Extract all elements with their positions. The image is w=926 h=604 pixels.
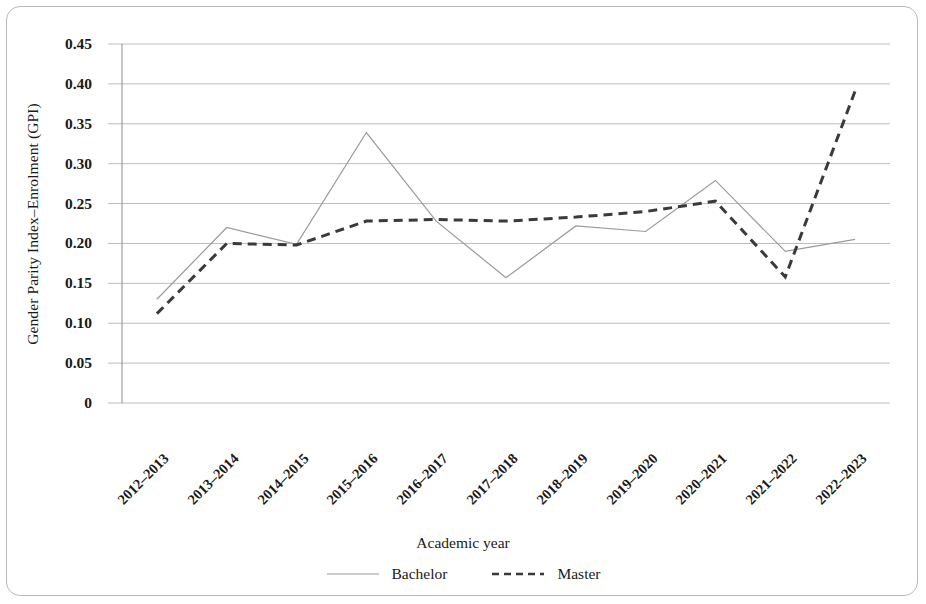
y-tick-label: 0.25 xyxy=(32,196,92,212)
series-lines xyxy=(157,91,855,314)
chart-legend: BachelorMaster xyxy=(0,566,926,582)
y-tick-label: 0.15 xyxy=(32,275,92,291)
legend-swatch-solid-line-icon xyxy=(326,569,380,579)
legend-swatch-dashed-line-icon xyxy=(491,569,545,579)
y-tick-label: 0.10 xyxy=(32,315,92,331)
legend-label: Master xyxy=(557,566,600,582)
series-line-bachelor xyxy=(157,133,855,300)
y-tick-label: 0 xyxy=(32,395,92,411)
legend-entry-bachelor: Bachelor xyxy=(326,566,448,582)
y-tick-label: 0.05 xyxy=(32,355,92,371)
plot-canvas xyxy=(0,0,926,604)
legend-label: Bachelor xyxy=(392,566,448,582)
y-tick-label: 0.45 xyxy=(32,36,92,52)
gridlines xyxy=(108,44,890,403)
series-line-master xyxy=(157,91,855,314)
x-axis-title: Academic year xyxy=(0,534,926,552)
line-chart: Gender Parity Index–Enrolment (GPI) 00.0… xyxy=(0,0,926,604)
legend-entry-master: Master xyxy=(491,566,600,582)
y-tick-label: 0.35 xyxy=(32,116,92,132)
y-tick-label: 0.40 xyxy=(32,76,92,92)
y-tick-label: 0.30 xyxy=(32,156,92,172)
y-tick-label: 0.20 xyxy=(32,235,92,251)
